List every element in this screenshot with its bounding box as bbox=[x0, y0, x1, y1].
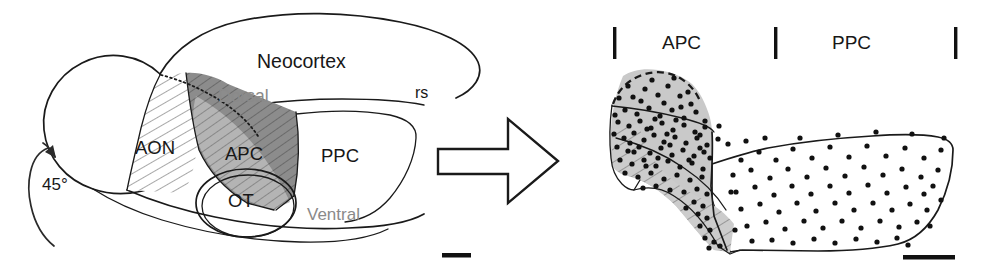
ppc-dot-cluster bbox=[725, 129, 946, 247]
tick-mark-middle bbox=[774, 27, 777, 59]
rotation-arc bbox=[29, 148, 54, 246]
label-ventral: Ventral bbox=[307, 205, 360, 224]
label-dorsal: Dorsal bbox=[218, 86, 269, 106]
figure-root: Neocortex Dorsal Ventral rs AON APC PPC … bbox=[0, 0, 984, 271]
label-neocortex: Neocortex bbox=[257, 50, 346, 72]
map-label-ppc: PPC bbox=[832, 32, 871, 53]
lateral-brain-view: Neocortex Dorsal Ventral rs AON APC PPC … bbox=[29, 14, 480, 258]
brain-region-figure: Neocortex Dorsal Ventral rs AON APC PPC … bbox=[0, 0, 984, 271]
rotation-arrowhead-tip bbox=[45, 145, 56, 158]
transform-arrow bbox=[438, 119, 558, 203]
label-rs: rs bbox=[415, 84, 428, 101]
label-ppc: PPC bbox=[321, 145, 359, 166]
tick-mark-right bbox=[954, 27, 957, 59]
transform-arrow-shape bbox=[438, 119, 558, 203]
unfolded-map-view: APC PPC bbox=[600, 27, 957, 260]
ppc-map-region bbox=[712, 135, 953, 252]
rotation-arrow bbox=[29, 143, 56, 246]
label-apc: APC bbox=[225, 143, 263, 164]
label-ot: OT bbox=[228, 190, 254, 211]
label-rotation-angle: 45° bbox=[42, 175, 68, 194]
scale-bar-left bbox=[442, 253, 471, 258]
map-label-apc: APC bbox=[662, 32, 701, 53]
tick-mark-left bbox=[613, 27, 616, 59]
scale-bar-right bbox=[903, 255, 955, 260]
label-aon: AON bbox=[135, 137, 175, 158]
